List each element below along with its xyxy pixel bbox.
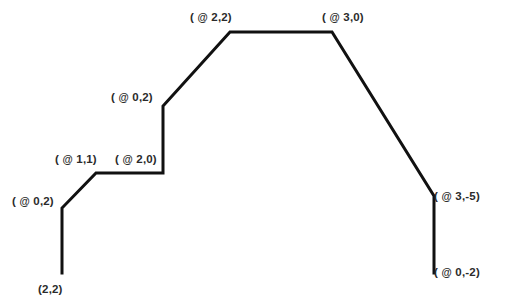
coordinate-label: ( @ 3,-5)	[434, 189, 480, 203]
coordinate-label: ( @ 2,2)	[190, 10, 232, 24]
coordinate-label: ( @ 0,2)	[111, 90, 153, 104]
at-sign-icon: @	[441, 190, 451, 202]
at-sign-icon: @	[441, 266, 451, 278]
coordinate-label: (2,2)	[38, 282, 63, 296]
at-sign-icon: @	[62, 153, 72, 165]
coordinate-label: ( @ 1,1)	[55, 152, 97, 166]
at-sign-icon: @	[122, 153, 132, 165]
at-sign-icon: @	[197, 11, 207, 23]
at-sign-icon: @	[329, 11, 339, 23]
coordinate-label: ( @ 2,0)	[115, 152, 157, 166]
coordinate-label: ( @ 0,2)	[12, 194, 54, 208]
at-sign-icon: @	[118, 91, 128, 103]
at-sign-icon: @	[19, 195, 29, 207]
coordinate-label: ( @ 3,0)	[322, 10, 364, 24]
polyline-diagram: ( @ 0,2)( @ 1,1)( @ 2,0)( @ 0,2)( @ 2,2)…	[0, 0, 506, 308]
coordinate-label: ( @ 0,-2)	[434, 265, 480, 279]
